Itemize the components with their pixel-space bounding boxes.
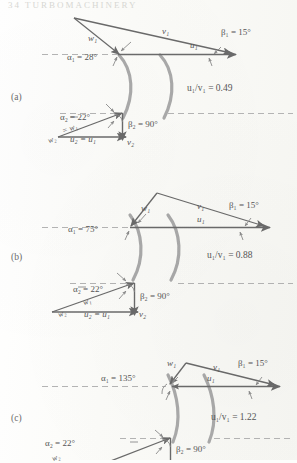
label-c-alpha1: α₁ = 135° <box>101 373 136 383</box>
label-b-v2: v₂ <box>139 309 146 319</box>
label-a-v2: v₂ <box>127 137 134 147</box>
label-a-v1: v₁ <box>162 26 169 36</box>
label-b-v1: v₁ <box>197 201 204 211</box>
label-a-alpha1: α₁ = 28° <box>67 52 97 62</box>
label-a-beta2: β₂ = 90° <box>128 119 158 129</box>
label-c-beta1: β₁ = 15° <box>238 358 268 368</box>
panel-label-b: (b) <box>11 252 22 262</box>
label-b-w1: w₁ <box>141 203 150 213</box>
label-b-beta2: β₂ = 90° <box>140 291 170 301</box>
panel-label-a: (a) <box>11 92 22 102</box>
label-c-u1: u₁ <box>207 373 215 383</box>
ratio-label-c: u₁/v₁ = 1.22 <box>211 412 257 422</box>
label-b-u2: u₂ = u₁ <box>84 309 110 319</box>
ratio-label-b: u₁/v₁ = 0.88 <box>207 250 253 260</box>
label-c-alpha2: α₂ = 22° <box>45 438 75 448</box>
panel-label-c: (c) <box>11 413 22 423</box>
ratio-label-a: u₁/v₁ = 0.49 <box>187 83 233 93</box>
label-b-beta1: β₁ = 15° <box>229 200 259 210</box>
label-a-u1: u₁ <box>190 40 198 50</box>
label-b-u1: u₁ <box>197 214 205 224</box>
label-b-alpha2: α₂ = 22° <box>73 284 103 294</box>
label-a-w1: w₁ <box>88 33 97 43</box>
label-a-beta1: β₁ = 15° <box>221 27 251 37</box>
label-c-beta2: β₂ = 90° <box>176 444 206 454</box>
label-c-w1: w₁ <box>167 358 176 368</box>
label-a-u2: u₂ = u₁ <box>70 134 96 144</box>
label-b-alpha1: α₁ = 75° <box>68 224 98 234</box>
label-c-v1: v₁ <box>213 362 220 372</box>
